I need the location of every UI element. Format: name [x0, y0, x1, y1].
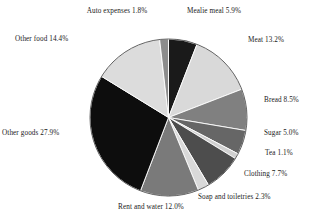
- pie-label-tea: Tea 1.1%: [265, 150, 293, 157]
- pie-chart-canvas: [0, 0, 324, 220]
- pie-label-sugar: Sugar 5.0%: [264, 130, 299, 137]
- pie-label-meat: Meat 13.2%: [248, 37, 284, 44]
- pie-label-clothing: Clothing 7.7%: [244, 171, 287, 178]
- pie-label-other-food: Other food 14.4%: [15, 36, 123, 43]
- pie-label-other-goods: Other goods 27.9%: [2, 130, 90, 137]
- pie-label-rent-and-water: Rent and water 12.0%: [96, 204, 206, 211]
- pie-label-bread: Bread 8.5%: [264, 97, 299, 104]
- pie-chart: Auto expenses 1.8% Mealie meal 5.9% Othe…: [0, 0, 324, 220]
- pie-label-soap-and-toiletries: Soap and toiletries 2.3%: [198, 194, 271, 201]
- pie-label-auto-expenses: Auto expenses 1.8%: [62, 8, 172, 15]
- pie-label-mealie-meal: Mealie meal 5.9%: [187, 8, 241, 15]
